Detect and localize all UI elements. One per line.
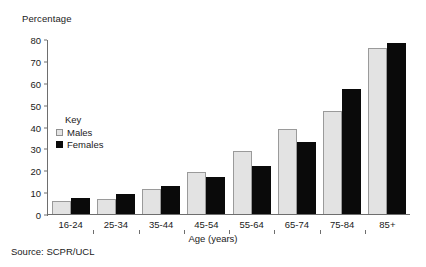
bar-group (184, 40, 229, 214)
bar-group (229, 40, 274, 214)
x-tick-label: 85+ (365, 219, 410, 230)
bar-males-75-84 (323, 111, 342, 214)
x-axis-ticks: 16-2425-3435-4445-5455-6465-7475-8485+ (48, 219, 410, 230)
bar-females-55-64 (252, 166, 271, 214)
y-tick-mark (44, 83, 47, 84)
legend-item-females: Females (56, 139, 103, 150)
x-tick-label: 45-54 (184, 219, 229, 230)
bar-females-85+ (387, 43, 406, 214)
y-tick-mark (44, 171, 47, 172)
bar-males-65-74 (278, 129, 297, 214)
legend-swatch-females-icon (56, 141, 63, 148)
bar-males-55-64 (233, 151, 252, 214)
legend-label-females: Females (67, 139, 103, 150)
y-tick-mark (44, 40, 47, 41)
x-tick-label: 55-64 (229, 219, 274, 230)
x-tick-label: 25-34 (93, 219, 138, 230)
bar-group (139, 40, 184, 214)
bar-males-85+ (368, 48, 387, 214)
x-tick-label: 65-74 (274, 219, 319, 230)
y-tick-mark (44, 193, 47, 194)
y-tick-mark (44, 149, 47, 150)
y-tick-mark (44, 127, 47, 128)
y-tick-mark (44, 215, 47, 216)
bar-females-45-54 (206, 177, 225, 214)
legend-item-males: Males (56, 127, 103, 138)
x-axis-title: Age (years) (0, 233, 426, 244)
bar-group (274, 40, 319, 214)
x-tick-label: 75-84 (320, 219, 365, 230)
y-axis-title: Percentage (22, 13, 72, 24)
legend-swatch-males-icon (56, 129, 63, 136)
x-axis-line (47, 214, 410, 215)
bar-females-65-74 (297, 142, 316, 214)
bar-males-45-54 (187, 172, 206, 214)
y-tick-mark (44, 105, 47, 106)
bar-group (365, 40, 410, 214)
bar-females-75-84 (342, 89, 361, 214)
legend-label-males: Males (67, 127, 92, 138)
x-tick-label: 16-24 (48, 219, 93, 230)
source-note: Source: SCPR/UCL (11, 246, 94, 257)
bar-males-25-34 (97, 199, 116, 214)
bar-females-35-44 (161, 186, 180, 214)
legend-title: Key (65, 114, 103, 125)
bar-males-16-24 (52, 201, 71, 214)
bar-females-25-34 (116, 194, 135, 214)
bar-group (320, 40, 365, 214)
legend: Key Males Females (56, 114, 103, 151)
x-tick-label: 35-44 (139, 219, 184, 230)
bar-females-16-24 (71, 198, 90, 214)
bar-males-35-44 (142, 189, 161, 214)
bar-chart-figure: Percentage 01020304050607080 16-2425-343… (0, 0, 426, 267)
y-tick-mark (44, 61, 47, 62)
